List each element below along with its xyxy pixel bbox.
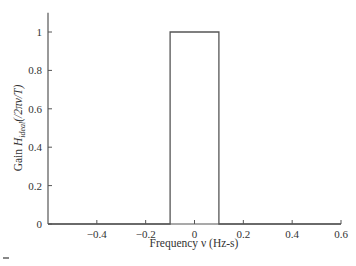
chart: −0.4−0.200.20.40.6 00.20.40.60.81 Freque…: [0, 0, 356, 266]
x-tick-label: 0.4: [285, 228, 299, 240]
y-tick-label: 0: [37, 218, 43, 230]
y-tick-label: 0.4: [28, 141, 42, 153]
axes: [48, 13, 341, 224]
y-tick-label: 0.8: [28, 64, 42, 76]
y-tick-label: 0.6: [28, 103, 42, 115]
x-tick-label: 0.2: [236, 228, 250, 240]
y-tick-label: 1: [37, 26, 43, 38]
series-line: [48, 32, 341, 224]
caption-fragment: [3, 257, 17, 260]
x-tick-label: 0.6: [334, 228, 348, 240]
x-axis-label: Frequency ν (Hz-s): [150, 237, 239, 250]
data-series: [48, 32, 341, 224]
y-axis-label: Gain Hideal(/2πν/T): [12, 85, 27, 172]
x-tick-label: −0.4: [87, 228, 107, 240]
y-tick-label: 0.2: [28, 180, 42, 192]
